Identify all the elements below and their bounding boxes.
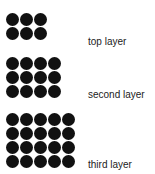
- circle-icon: [48, 57, 61, 70]
- circle-icon: [6, 113, 19, 126]
- circle-icon: [48, 127, 61, 140]
- second-layer-label: second layer: [88, 89, 145, 100]
- circle-icon: [20, 113, 33, 126]
- circle-icon: [6, 57, 19, 70]
- circle-icon: [20, 27, 33, 40]
- circle-icon: [6, 71, 19, 84]
- circle-icon: [20, 85, 33, 98]
- circle-icon: [62, 113, 75, 126]
- circle-icon: [34, 141, 47, 154]
- circle-icon: [48, 141, 61, 154]
- circle-icon: [48, 71, 61, 84]
- circle-icon: [34, 27, 47, 40]
- top-layer-dots: [6, 13, 47, 40]
- circle-icon: [20, 127, 33, 140]
- circle-icon: [48, 85, 61, 98]
- circle-icon: [34, 155, 47, 168]
- circle-icon: [62, 127, 75, 140]
- circle-icon: [62, 155, 75, 168]
- circle-icon: [20, 13, 33, 26]
- circle-icon: [6, 127, 19, 140]
- circle-icon: [34, 13, 47, 26]
- circle-icon: [34, 57, 47, 70]
- circle-icon: [34, 71, 47, 84]
- circle-icon: [6, 85, 19, 98]
- circle-icon: [20, 155, 33, 168]
- circle-icon: [48, 113, 61, 126]
- circle-icon: [20, 141, 33, 154]
- third-layer-dots: [6, 113, 75, 168]
- circle-icon: [20, 57, 33, 70]
- circle-icon: [6, 141, 19, 154]
- circle-icon: [34, 113, 47, 126]
- circle-icon: [6, 27, 19, 40]
- second-layer-dots: [6, 57, 61, 98]
- third-layer-label: third layer: [88, 159, 132, 170]
- circle-icon: [62, 141, 75, 154]
- circle-icon: [6, 155, 19, 168]
- circle-icon: [34, 127, 47, 140]
- circle-icon: [34, 85, 47, 98]
- circle-icon: [20, 71, 33, 84]
- circle-icon: [6, 13, 19, 26]
- circle-icon: [48, 155, 61, 168]
- top-layer-label: top layer: [88, 36, 126, 47]
